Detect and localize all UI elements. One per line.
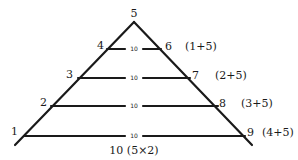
note-3: (3+5) <box>241 97 273 110</box>
left-label-3: 3 <box>66 68 73 81</box>
triangle-diagram: 10 10 10 10 5 4 3 2 1 6 7 8 9 (1+5) (2+5… <box>0 0 298 160</box>
rung-2-middle: 10 <box>130 74 138 81</box>
apex-label: 5 <box>131 7 138 20</box>
base-label: 10 (5×2) <box>109 144 158 157</box>
right-label-6: 6 <box>165 40 172 53</box>
right-label-7: 7 <box>192 69 199 82</box>
left-side <box>15 22 134 145</box>
rung-3-middle: 10 <box>130 102 138 109</box>
note-1: (1+5) <box>185 40 217 53</box>
right-label-9: 9 <box>247 126 254 139</box>
left-label-4: 4 <box>97 39 104 52</box>
left-label-2: 2 <box>40 96 47 109</box>
rung-4-middle: 10 <box>130 132 138 139</box>
left-label-1: 1 <box>11 125 18 138</box>
right-label-8: 8 <box>219 97 226 110</box>
note-2: (2+5) <box>215 69 247 82</box>
note-4: (4+5) <box>262 126 294 139</box>
rung-1-middle: 10 <box>130 45 138 52</box>
